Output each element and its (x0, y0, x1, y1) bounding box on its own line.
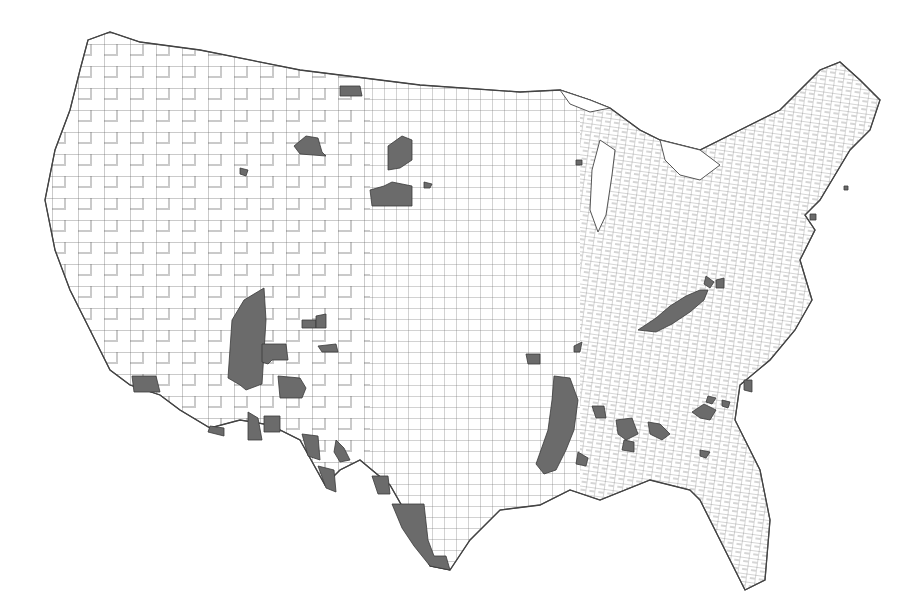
region-se-arizona-3 (264, 416, 280, 432)
region-alabama-3 (622, 440, 634, 452)
region-northeast-1 (810, 214, 816, 220)
region-arkansas (526, 354, 540, 364)
region-colorado-1 (302, 320, 316, 328)
region-northeast-2 (844, 186, 848, 190)
us-land (40, 30, 900, 590)
region-montana-north (340, 86, 362, 96)
region-west-texas-4 (372, 476, 390, 494)
us-county-map (0, 0, 923, 606)
region-west-texas-3 (318, 466, 336, 492)
region-sw-arizona (132, 376, 160, 392)
region-appalachia-3 (716, 278, 724, 288)
region-wisconsin (576, 160, 582, 165)
region-se-arizona-1 (208, 426, 224, 436)
region-colorado-2 (316, 314, 326, 328)
region-carolina-1 (744, 380, 752, 392)
